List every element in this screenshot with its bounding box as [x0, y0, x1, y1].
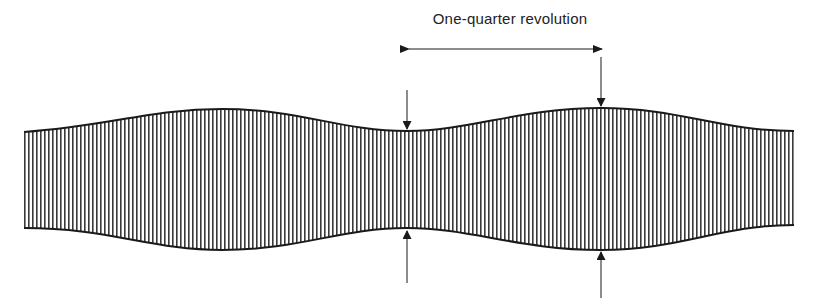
one-quarter-revolution-label: One-quarter revolution: [433, 10, 587, 27]
quarter-revolution-diagram: One-quarter revolution: [0, 0, 815, 303]
